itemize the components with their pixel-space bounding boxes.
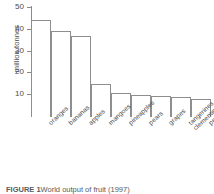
y-tick-label-20: 20 bbox=[15, 67, 24, 76]
y-tick-50: 50 bbox=[27, 7, 32, 8]
y-tick-label-10: 10 bbox=[15, 89, 24, 98]
figure-container: million tonnes 1020304050 orangesbananas… bbox=[0, 0, 214, 194]
figure-caption: FIGURE 1World output of fruit (1997) bbox=[6, 185, 212, 194]
plot-area: 1020304050 bbox=[31, 6, 211, 117]
bar-bananas bbox=[51, 31, 71, 117]
figure-caption-text: World output of fruit (1997) bbox=[41, 185, 130, 194]
figure-caption-label: FIGURE 1 bbox=[6, 185, 41, 194]
y-tick-label-30: 30 bbox=[15, 46, 24, 55]
y-tick-label-50: 50 bbox=[15, 2, 24, 11]
y-tick-label-40: 40 bbox=[15, 24, 24, 33]
bar-oranges bbox=[31, 20, 51, 117]
